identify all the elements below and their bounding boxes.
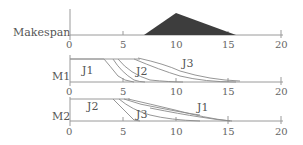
m1-j1-curve [70, 59, 134, 82]
m2-job-j2: J2 [86, 100, 98, 113]
m2-tick-15: 15 [222, 126, 235, 137]
makespan-label: Makespan [13, 26, 70, 39]
makespan-triangle [144, 13, 236, 35]
m2-j1-curve-b [150, 108, 232, 121]
machine-label-m1: M1 [52, 70, 70, 83]
machine-label-m2: M2 [52, 110, 70, 123]
tick-0: 0 [66, 39, 72, 50]
m1-tick-0: 0 [66, 86, 72, 97]
m1-job-j3: J3 [181, 57, 193, 70]
m2-tick-10: 10 [170, 126, 183, 137]
schedule-diagram: Makespan 0 5 10 15 20 M1 [0, 0, 303, 145]
machine-m1-panel: M1 J1 J2 J3 0 5 10 15 20 [52, 55, 288, 97]
m1-ticks [123, 77, 281, 85]
m1-tick-20: 20 [275, 86, 288, 97]
m2-job-j3: J3 [135, 108, 147, 121]
tick-5: 5 [120, 39, 126, 50]
machine-m2-panel: M2 J2 J3 J1 0 5 10 15 20 [52, 97, 288, 137]
m1-tick-15: 15 [222, 86, 235, 97]
diagram-canvas: Makespan 0 5 10 15 20 M1 [0, 0, 303, 145]
m1-job-j2: J2 [135, 65, 147, 78]
tick-15: 15 [222, 39, 235, 50]
m2-tick-20: 20 [275, 126, 288, 137]
tick-20: 20 [275, 39, 288, 50]
m1-tick-5: 5 [120, 86, 126, 97]
m1-job-j1: J1 [81, 64, 93, 77]
m2-tick-0: 0 [66, 126, 72, 137]
m1-tick-10: 10 [170, 86, 183, 97]
makespan-panel: Makespan 0 5 10 15 20 [13, 9, 288, 50]
m2-job-j1: J1 [196, 101, 208, 114]
m1-j2-curve-b [118, 59, 183, 82]
m2-tick-5: 5 [120, 126, 126, 137]
tick-10: 10 [170, 39, 183, 50]
